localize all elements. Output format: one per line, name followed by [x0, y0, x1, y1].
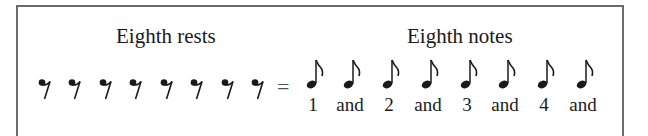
heading-eighth-notes: Eighth notes: [407, 24, 513, 49]
eighth-rest-icon: [160, 78, 176, 106]
eighth-rest-icon: [221, 78, 237, 106]
eighth-note-icon: [342, 58, 364, 94]
count-label: and: [563, 94, 603, 116]
eighth-note-icon: [497, 58, 519, 94]
eighth-rest-icon: [190, 78, 206, 106]
equals-sign: =: [277, 74, 289, 100]
heading-eighth-rests: Eighth rests: [116, 24, 216, 49]
eighth-rest-icon: [251, 78, 267, 106]
count-label: and: [408, 94, 448, 116]
eighth-note-icon: [575, 58, 597, 94]
count-label: and: [330, 94, 370, 116]
eighth-rest-icon: [68, 78, 84, 106]
count-label: 2: [369, 94, 409, 116]
eighth-note-icon: [459, 58, 481, 94]
eighth-note-icon: [420, 58, 442, 94]
count-label: and: [485, 94, 525, 116]
eighth-note-icon: [305, 58, 327, 94]
eighth-rest-icon: [129, 78, 145, 106]
count-label: 3: [447, 94, 487, 116]
eighth-rest-icon: [38, 78, 54, 106]
count-label: 1: [293, 94, 333, 116]
eighth-note-icon: [536, 58, 558, 94]
eighth-rest-icon: [99, 78, 115, 106]
eighth-note-icon: [381, 58, 403, 94]
count-label: 4: [524, 94, 564, 116]
